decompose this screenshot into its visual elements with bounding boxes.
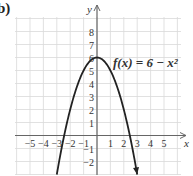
svg-text:5: 5 [162, 138, 167, 149]
curve [53, 58, 139, 176]
function-label: f(x) = 6 − x² [113, 55, 179, 70]
svg-text:5: 5 [89, 66, 94, 77]
svg-text:4: 4 [148, 138, 153, 149]
svg-text:3: 3 [89, 92, 94, 103]
grid-lines [15, 17, 181, 175]
svg-text:−3: −3 [51, 138, 62, 149]
svg-text:8: 8 [89, 27, 94, 38]
svg-text:4: 4 [89, 79, 94, 90]
svg-text:y: y [86, 3, 92, 15]
graph-figure: b) xy−5−4−3−2−112345−2−112345678 f(x) = … [0, 0, 193, 175]
svg-text:2: 2 [121, 138, 126, 149]
svg-text:3: 3 [135, 138, 140, 149]
svg-text:1: 1 [89, 118, 94, 129]
svg-text:−4: −4 [38, 138, 49, 149]
svg-text:−2: −2 [65, 138, 76, 149]
svg-text:−1: −1 [83, 144, 94, 155]
svg-text:−5: −5 [25, 138, 36, 149]
svg-text:7: 7 [89, 40, 94, 51]
part-label: b) [0, 0, 10, 17]
svg-text:x: x [183, 137, 189, 149]
axes [15, 5, 186, 175]
svg-text:2: 2 [89, 105, 94, 116]
svg-text:1: 1 [108, 138, 113, 149]
svg-text:−2: −2 [83, 157, 94, 168]
function-plot: xy−5−4−3−2−112345−2−112345678 f(x) = 6 −… [0, 0, 193, 175]
